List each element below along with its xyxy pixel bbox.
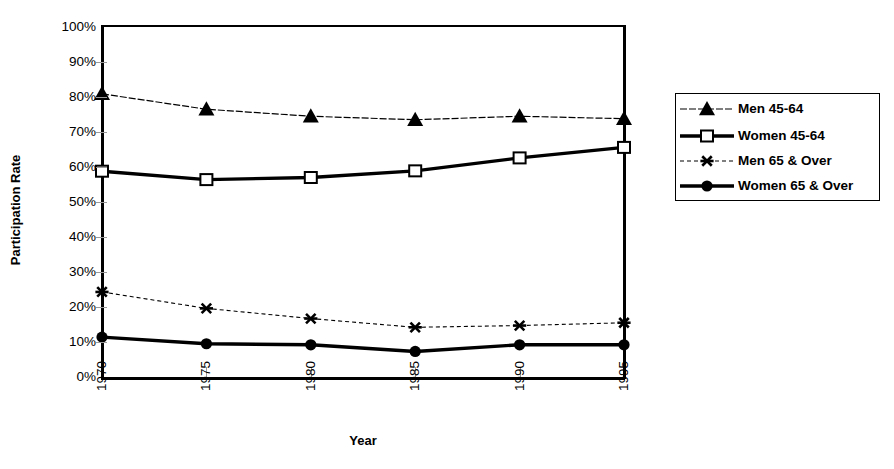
x-axis-title: Year bbox=[101, 433, 625, 448]
y-tick-label: 90% bbox=[48, 55, 96, 69]
legend-label: Women 65 & Over bbox=[738, 179, 853, 193]
data-point-marker-circle bbox=[618, 339, 629, 350]
data-point-marker-circle bbox=[701, 180, 712, 191]
data-point-marker-square bbox=[200, 174, 212, 185]
chart-legend: Men 45-64Women 45-64Men 65 & OverWomen 6… bbox=[675, 93, 880, 201]
y-tick-mark bbox=[96, 272, 107, 273]
x-tick-label: 1985 bbox=[406, 361, 424, 415]
legend-label: Men 65 & Over bbox=[738, 154, 832, 168]
data-point-marker-square bbox=[618, 142, 630, 153]
series-plot bbox=[101, 27, 625, 377]
x-axis-tick-labels: 197019751980198519901995 bbox=[101, 377, 625, 437]
data-point-marker-asterisk bbox=[513, 321, 526, 331]
legend-label: Men 45-64 bbox=[738, 102, 803, 116]
series-line bbox=[102, 147, 624, 179]
y-tick-mark bbox=[96, 97, 107, 98]
y-tick-mark bbox=[96, 307, 107, 308]
y-tick-label: 10% bbox=[48, 335, 96, 349]
y-axis-title: Participation Rate bbox=[8, 120, 30, 300]
x-tick-label: 1990 bbox=[511, 361, 529, 415]
data-point-marker-square bbox=[305, 172, 317, 183]
data-point-marker-triangle bbox=[407, 112, 423, 126]
y-tick-label: 70% bbox=[48, 125, 96, 139]
data-point-marker-asterisk bbox=[409, 323, 422, 333]
data-point-marker-triangle bbox=[616, 111, 632, 125]
data-point-marker-asterisk bbox=[95, 287, 108, 297]
y-tick-label: 50% bbox=[48, 195, 96, 209]
data-point-marker-circle bbox=[305, 339, 316, 350]
legend-item-1[interactable]: Men 45-64 bbox=[676, 97, 881, 121]
data-point-marker-triangle bbox=[512, 108, 528, 122]
data-point-marker-square bbox=[514, 152, 526, 163]
series-line bbox=[102, 337, 624, 351]
data-point-marker-square bbox=[409, 165, 421, 176]
plot-area bbox=[101, 27, 625, 377]
legend-item-4[interactable]: Women 65 & Over bbox=[676, 174, 881, 198]
data-point-marker-asterisk bbox=[617, 318, 630, 328]
series-line bbox=[102, 292, 624, 327]
data-point-marker-square bbox=[701, 131, 713, 142]
y-tick-label: 60% bbox=[48, 160, 96, 174]
y-tick-mark bbox=[96, 62, 107, 63]
legend-label: Women 45-64 bbox=[738, 129, 825, 143]
y-tick-label: 20% bbox=[48, 300, 96, 314]
data-point-marker-triangle bbox=[699, 101, 715, 115]
y-tick-label: 80% bbox=[48, 90, 96, 104]
y-tick-label: 100% bbox=[48, 20, 96, 34]
data-point-marker-asterisk bbox=[700, 156, 713, 166]
y-tick-mark bbox=[96, 132, 107, 133]
legend-marker-asterisk-icon bbox=[676, 150, 738, 172]
legend-item-2[interactable]: Women 45-64 bbox=[676, 124, 881, 148]
x-tick-label: 1975 bbox=[197, 361, 215, 415]
legend-marker-square-icon bbox=[676, 125, 738, 147]
x-tick-label: 1970 bbox=[93, 361, 111, 415]
y-tick-mark bbox=[96, 202, 107, 203]
legend-marker-circle-icon bbox=[676, 175, 738, 197]
x-tick-label: 1980 bbox=[302, 361, 320, 415]
series-line bbox=[102, 94, 624, 120]
x-tick-label: 1995 bbox=[615, 361, 633, 415]
legend-item-3[interactable]: Men 65 & Over bbox=[676, 149, 881, 173]
y-tick-label: 40% bbox=[48, 230, 96, 244]
legend-marker-triangle-icon bbox=[676, 98, 738, 120]
y-tick-label: 30% bbox=[48, 265, 96, 279]
data-point-marker-circle bbox=[201, 338, 212, 349]
data-point-marker-circle bbox=[514, 339, 525, 350]
y-tick-mark bbox=[96, 167, 107, 168]
chart-figure: Participation Rate 0%10%20%30%40%50%60%7… bbox=[0, 0, 894, 469]
data-point-marker-circle bbox=[410, 346, 421, 357]
data-point-marker-asterisk bbox=[200, 304, 213, 314]
data-point-marker-asterisk bbox=[304, 314, 317, 324]
y-tick-mark bbox=[96, 237, 107, 238]
y-tick-label: 0% bbox=[48, 370, 96, 384]
y-tick-mark bbox=[96, 342, 107, 343]
y-axis-tick-labels: 0%10%20%30%40%50%60%70%80%90%100% bbox=[44, 0, 96, 469]
